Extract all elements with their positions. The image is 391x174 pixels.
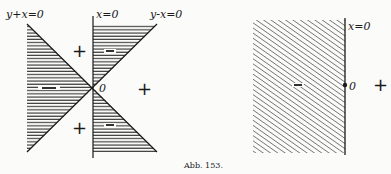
- label-x-zero-right: x=0: [348, 20, 370, 33]
- origin-point: [343, 83, 347, 87]
- label-x-zero: x=0: [96, 8, 118, 21]
- sign-top-left: +: [72, 40, 87, 61]
- label-y-plus-x: y+x=0: [5, 8, 44, 21]
- label-y-minus-x: y-x=0: [149, 8, 182, 21]
- origin-label-right: 0: [349, 80, 356, 93]
- origin-label-left: 0: [99, 82, 106, 95]
- figure-caption: Abb. 153.: [183, 161, 223, 170]
- sign-right-plus: +: [373, 74, 388, 95]
- right-panel: x=0 0 +: [253, 18, 388, 155]
- figure-canvas: y+x=0 x=0 y-x=0 0 + + + x=0 0 + Abb. 153…: [0, 0, 391, 174]
- sign-right: +: [137, 78, 152, 99]
- sign-bottom-left: +: [72, 117, 87, 138]
- left-panel: y+x=0 x=0 y-x=0 0 + + +: [5, 8, 182, 158]
